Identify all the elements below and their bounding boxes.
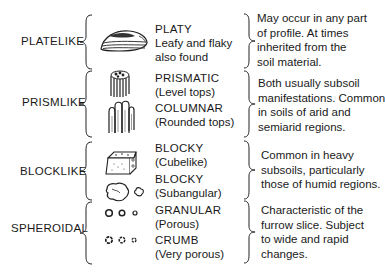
left-brace-prismlike bbox=[78, 70, 94, 138]
description-line: to wide and rapid bbox=[261, 232, 364, 247]
blocky-cubelike-icon bbox=[104, 150, 138, 176]
type-name: BLOCKY bbox=[155, 141, 207, 155]
right-brace-platelike bbox=[243, 13, 257, 69]
type-granular: GRANULAR (Porous) bbox=[155, 203, 221, 231]
columnar-icon bbox=[106, 98, 136, 134]
description-platelike: May occur in any part of profile. At tim… bbox=[257, 11, 367, 69]
blocky-subangular-icon bbox=[104, 181, 146, 203]
type-prismatic: PRISMATIC (Level tops) bbox=[155, 71, 219, 99]
crumb-icon bbox=[104, 233, 144, 247]
description-line: those of humid regions. bbox=[261, 177, 381, 192]
category-label-platelike: PLATELIKE bbox=[21, 35, 84, 47]
type-columnar: COLUMNAR (Rounded tops) bbox=[155, 101, 234, 129]
description-spheroidal: Characteristic of the furrow slice. Subj… bbox=[261, 203, 364, 261]
type-blocky-cubelike: BLOCKY (Cubelike) bbox=[155, 141, 207, 169]
left-brace-blocklike bbox=[78, 141, 94, 201]
type-subtitle: also found bbox=[155, 50, 232, 64]
right-brace-blocklike bbox=[243, 140, 257, 200]
type-name: BLOCKY bbox=[155, 172, 221, 186]
category-label-prismlike: PRISMLIKE bbox=[22, 96, 86, 108]
type-subtitle: (Very porous) bbox=[155, 247, 224, 261]
description-line: Both usually subsoil bbox=[258, 76, 385, 91]
platy-icon bbox=[99, 27, 149, 53]
type-name: COLUMNAR bbox=[155, 101, 234, 115]
right-brace-prismlike bbox=[243, 70, 257, 138]
prismatic-icon bbox=[108, 70, 132, 98]
granular-icon bbox=[104, 206, 144, 220]
type-name: GRANULAR bbox=[155, 203, 221, 217]
type-crumb: CRUMB (Very porous) bbox=[155, 233, 224, 261]
category-label-blocklike: BLOCKLIKE bbox=[20, 165, 87, 177]
type-name: PLATY bbox=[155, 22, 232, 36]
right-brace-spheroidal bbox=[243, 200, 257, 264]
type-name: CRUMB bbox=[155, 233, 224, 247]
type-subtitle: (Cubelike) bbox=[155, 155, 207, 169]
description-line: semiarid regions. bbox=[258, 120, 385, 135]
type-blocky-subangular: BLOCKY (Subangular) bbox=[155, 172, 221, 200]
type-name: PRISMATIC bbox=[155, 71, 219, 85]
left-brace-spheroidal bbox=[78, 201, 94, 265]
description-line: Common in heavy bbox=[261, 148, 381, 163]
description-line: manifestations. Common bbox=[258, 91, 385, 106]
description-blocklike: Common in heavy subsoils, particularly t… bbox=[261, 148, 381, 192]
description-line: in soils of arid and bbox=[258, 105, 385, 120]
description-line: furrow slice. Subject bbox=[261, 218, 364, 233]
type-subtitle: (Porous) bbox=[155, 217, 221, 231]
left-brace-platelike bbox=[78, 14, 94, 70]
type-platy: PLATY Leafy and flaky also found bbox=[155, 22, 232, 64]
type-subtitle: (Rounded tops) bbox=[155, 115, 234, 129]
description-line: changes. bbox=[261, 247, 364, 262]
description-line: May occur in any part bbox=[257, 11, 367, 26]
description-line: of profile. At times bbox=[257, 26, 367, 41]
type-subtitle: (Subangular) bbox=[155, 186, 221, 200]
type-subtitle: Leafy and flaky bbox=[155, 36, 232, 50]
description-line: inherited from the bbox=[257, 40, 367, 55]
description-prismlike: Both usually subsoil manifestations. Com… bbox=[258, 76, 385, 134]
description-line: subsoils, particularly bbox=[261, 163, 381, 178]
type-subtitle: (Level tops) bbox=[155, 85, 219, 99]
description-line: Characteristic of the bbox=[261, 203, 364, 218]
category-label-spheroidal: SPHEROIDAL bbox=[11, 222, 88, 234]
description-line: soil material. bbox=[257, 55, 367, 70]
